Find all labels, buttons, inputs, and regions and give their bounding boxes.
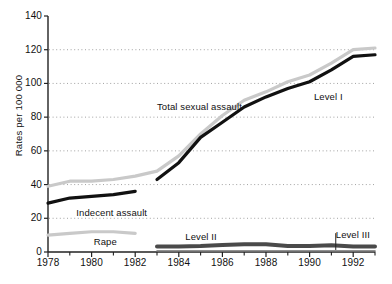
series-line-indecent-assault — [48, 191, 135, 203]
annotation-total-sexual-assault: Total sexual assault — [157, 102, 242, 112]
series-line-rape — [48, 232, 135, 235]
annotation-indecent-assault: Indecent assault — [76, 208, 147, 218]
series-line-level-ii — [157, 244, 375, 246]
x-axis-tick-label: 1984 — [159, 258, 199, 268]
x-axis-tick-label: 1982 — [115, 258, 155, 268]
x-axis-tick-label: 1986 — [202, 258, 242, 268]
annotation-level-ii: Level II — [185, 232, 216, 242]
annotation-level-iii: Level III — [336, 230, 370, 240]
x-axis-tick-label: 1990 — [290, 258, 330, 268]
x-axis-tick-label: 1988 — [246, 258, 286, 268]
x-axis-tick-labels: 19781980198219841986198819901992 — [0, 258, 392, 274]
x-axis-tick-label: 1978 — [28, 258, 68, 268]
chart-container: Rates per 100 000 020406080100120140 197… — [0, 0, 392, 284]
annotation-rape: Rape — [94, 237, 117, 247]
x-axis-tick-label: 1992 — [333, 258, 373, 268]
x-axis-tick-label: 1980 — [72, 258, 112, 268]
annotation-level-i: Level I — [314, 92, 343, 102]
